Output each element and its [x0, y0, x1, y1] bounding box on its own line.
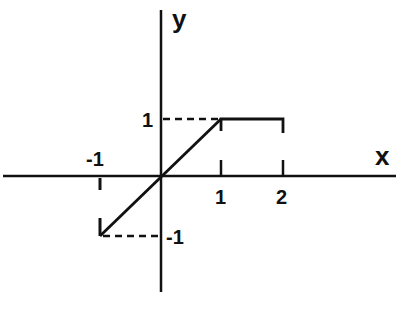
- segment-y-equals-1: [221, 119, 283, 133]
- tick-label-x-neg1: -1: [86, 148, 104, 170]
- tick-label-y-neg1: -1: [166, 226, 184, 248]
- tick-label-y-1: 1: [142, 109, 153, 131]
- y-axis-label: y: [172, 4, 187, 34]
- tick-label-x-1: 1: [215, 186, 226, 208]
- tick-label-x-2: 2: [276, 186, 287, 208]
- function-graph: y x -1 1 2 1 -1: [0, 0, 410, 310]
- x-axis-label: x: [375, 141, 390, 171]
